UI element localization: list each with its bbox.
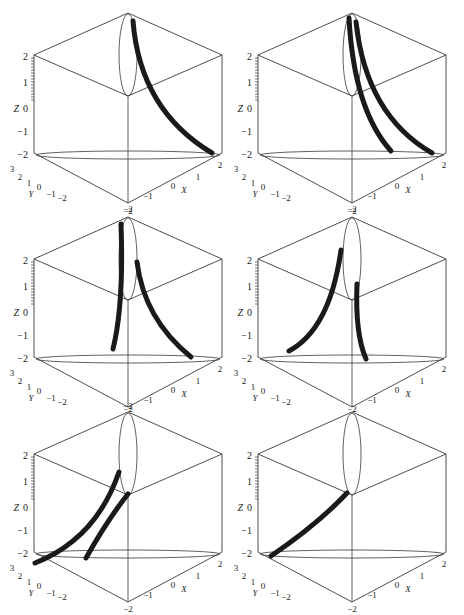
- svg-text:0: 0: [247, 502, 252, 513]
- svg-text:1: 1: [23, 77, 28, 88]
- x-axis-title: X: [180, 584, 187, 594]
- svg-text:−1: −1: [241, 330, 252, 341]
- x-axis-labels: −2 −1 0 1 2 X: [347, 160, 446, 214]
- y-axis-title: Y: [28, 393, 34, 403]
- svg-text:−1: −1: [46, 189, 56, 199]
- svg-text:0: 0: [395, 385, 400, 395]
- svg-text:1: 1: [196, 172, 201, 182]
- y-axis-title: Y: [252, 588, 258, 598]
- panel-6: 2 1 0 −1 −2 Z 3 2 1 0 −1 −2 Y −2 −1 0 1 …: [234, 412, 447, 614]
- svg-text:−1: −1: [17, 525, 28, 536]
- svg-text:−2: −2: [123, 604, 133, 614]
- svg-text:1: 1: [247, 281, 252, 292]
- svg-text:2: 2: [247, 51, 252, 62]
- svg-text:0: 0: [37, 581, 42, 591]
- svg-text:−1: −1: [241, 525, 252, 536]
- svg-text:1: 1: [420, 571, 425, 581]
- svg-text:0: 0: [261, 386, 266, 396]
- svg-text:−2: −2: [347, 604, 357, 614]
- svg-text:0: 0: [395, 580, 400, 590]
- svg-text:1: 1: [251, 577, 256, 587]
- svg-text:1: 1: [420, 376, 425, 386]
- x-axis-title: X: [404, 584, 411, 594]
- y-axis-labels: 3 2 1 0 −1 −2 Y: [10, 563, 67, 602]
- panel-1: 2 1 0 −1 −2 Z 3 2 1 0 −1 −2 Y −2 −1 0 1 …: [10, 13, 223, 214]
- figure-grid: 2 1 0 −1 −2 Z 3 2 1 0 −1 −2 Y −2 −1 0 1 …: [0, 0, 464, 615]
- z-axis-title: Z: [237, 103, 243, 114]
- z-axis-labels: 2 1 0 −1 −2 Z: [13, 255, 28, 364]
- svg-text:2: 2: [442, 364, 447, 374]
- svg-text:0: 0: [171, 181, 176, 191]
- curve: [289, 250, 341, 351]
- y-axis-title: Y: [252, 189, 258, 199]
- z-axis-labels: 2 1 0 −1 −2 Z: [237, 255, 252, 364]
- z-axis-labels: 2 1 0 −1 −2 Z: [13, 450, 28, 559]
- svg-text:3: 3: [234, 368, 239, 378]
- svg-text:2: 2: [23, 51, 28, 62]
- curve: [113, 224, 122, 349]
- svg-text:0: 0: [247, 103, 252, 114]
- panel-4: 2 1 0 −1 −2 Z 3 2 1 0 −1 −2 Y −2 −2 −1 0…: [234, 206, 447, 414]
- svg-text:1: 1: [23, 281, 28, 292]
- curve: [271, 493, 347, 556]
- svg-text:−1: −1: [367, 590, 377, 600]
- svg-text:1: 1: [27, 178, 32, 188]
- svg-text:1: 1: [23, 476, 28, 487]
- svg-text:2: 2: [218, 364, 223, 374]
- svg-text:−1: −1: [143, 191, 153, 201]
- svg-text:−1: −1: [367, 395, 377, 405]
- svg-text:2: 2: [23, 255, 28, 266]
- y-axis-labels: 3 2 1 0 −1 −2 Y: [10, 368, 67, 407]
- svg-text:−1: −1: [270, 588, 280, 598]
- svg-text:−2: −2: [123, 206, 133, 216]
- svg-text:−1: −1: [270, 189, 280, 199]
- svg-text:3: 3: [234, 164, 239, 174]
- z-axis-title: Z: [13, 103, 19, 114]
- svg-text:−2: −2: [57, 193, 67, 203]
- y-axis-labels: 3 2 1 0 −1 −2 Y: [234, 563, 291, 602]
- svg-text:3: 3: [10, 563, 15, 573]
- svg-text:0: 0: [247, 307, 252, 318]
- svg-text:3: 3: [10, 164, 15, 174]
- svg-text:2: 2: [218, 160, 223, 170]
- svg-text:−1: −1: [17, 126, 28, 137]
- y-axis-title: Y: [28, 588, 34, 598]
- svg-text:−1: −1: [143, 395, 153, 405]
- svg-text:2: 2: [247, 450, 252, 461]
- curve: [356, 22, 432, 153]
- z-axis-labels: 2 1 0 −1 −2 Z: [13, 51, 28, 160]
- svg-text:0: 0: [171, 385, 176, 395]
- svg-text:−1: −1: [241, 126, 252, 137]
- svg-text:2: 2: [247, 255, 252, 266]
- svg-text:2: 2: [218, 559, 223, 569]
- panel-3: 2 1 0 −1 −2 Z 3 2 1 0 −1 −2 Y −2 −2 −1 0…: [10, 206, 223, 414]
- x-axis-title: X: [404, 389, 411, 399]
- svg-text:1: 1: [251, 178, 256, 188]
- svg-text:0: 0: [37, 182, 42, 192]
- svg-text:−2: −2: [281, 397, 291, 407]
- svg-text:−2: −2: [17, 353, 28, 364]
- svg-text:0: 0: [37, 386, 42, 396]
- svg-text:−2: −2: [281, 592, 291, 602]
- panel-2: 2 1 0 −1 −2 Z 3 2 1 0 −1 −2 Y −2 −1 0 1 …: [234, 13, 447, 214]
- svg-text:1: 1: [196, 571, 201, 581]
- curve: [133, 21, 212, 153]
- svg-text:3: 3: [10, 368, 15, 378]
- svg-text:0: 0: [261, 581, 266, 591]
- svg-text:2: 2: [242, 172, 247, 182]
- svg-text:−2: −2: [17, 149, 28, 160]
- x-axis-labels: −2 −1 0 1 2 X: [123, 160, 222, 214]
- svg-text:−1: −1: [46, 588, 56, 598]
- svg-text:2: 2: [242, 571, 247, 581]
- x-axis-labels: −2 −1 0 1 2 X: [347, 559, 446, 614]
- svg-text:−1: −1: [270, 393, 280, 403]
- svg-text:2: 2: [242, 376, 247, 386]
- svg-text:−2: −2: [57, 397, 67, 407]
- z-axis-title: Z: [237, 307, 243, 318]
- svg-text:0: 0: [171, 580, 176, 590]
- y-axis-title: Y: [28, 189, 34, 199]
- x-axis-title: X: [180, 185, 187, 195]
- z-axis-title: Z: [13, 502, 19, 513]
- svg-text:0: 0: [23, 103, 28, 114]
- svg-text:3: 3: [234, 563, 239, 573]
